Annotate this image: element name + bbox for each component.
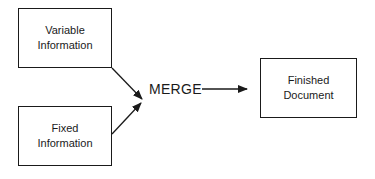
arrow-fixed-to-merge	[112, 103, 141, 134]
box-label-line1: Finished	[288, 73, 330, 88]
box-label-line1: Fixed	[52, 121, 79, 136]
box-label-line1: Variable	[45, 23, 85, 38]
variable-information-box: Variable Information	[18, 8, 112, 68]
box-label-line2: Information	[37, 38, 92, 53]
merge-label: MERGE	[149, 81, 202, 97]
box-label-line2: Information	[37, 136, 92, 151]
finished-document-box: Finished Document	[260, 58, 357, 118]
box-label-line2: Document	[283, 88, 333, 103]
arrow-variable-to-merge	[112, 68, 142, 99]
fixed-information-box: Fixed Information	[18, 106, 112, 166]
